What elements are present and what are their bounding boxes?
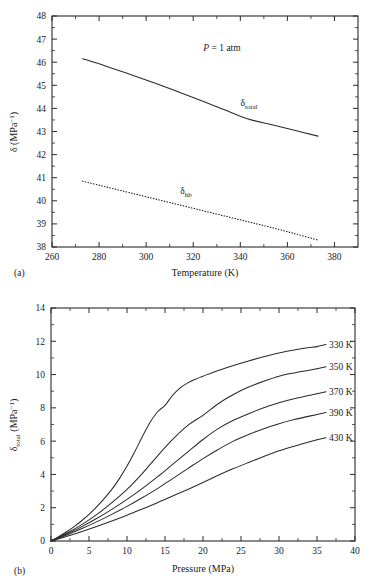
panel-b-plot-frame: [51, 308, 355, 541]
leader-line: [317, 438, 326, 440]
panel-a-y-axis-title: δ (MPa−1): [8, 112, 21, 152]
y-tick-label: 48: [37, 11, 47, 21]
series-label: 330 K: [329, 340, 353, 350]
panel-a-tag: (a): [14, 268, 25, 279]
y-tick-label: 40: [37, 196, 47, 206]
x-tick-label: 15: [160, 546, 170, 556]
panel-b-curves: [51, 347, 317, 541]
x-tick-label: 40: [350, 546, 360, 556]
x-tick-label: 20: [198, 546, 208, 556]
leader-line: [317, 413, 326, 415]
y-tick-label: 8: [40, 403, 45, 413]
series-label: 350 K: [329, 362, 353, 372]
leader-line: [317, 367, 326, 369]
panel-b: 0510152025303540 02468101214 330 K350 K3…: [0, 285, 371, 587]
x-tick-label: 320: [186, 252, 201, 262]
panel-a-x-ticks: 260280300320340360380: [45, 16, 342, 262]
y-tick-label: 12: [36, 337, 46, 347]
panel-b-series-labels: 330 K350 K370 K390 K430 K: [329, 340, 353, 443]
label-delta-hb: δhb: [180, 186, 192, 199]
panel-b-label-leaders: [317, 345, 326, 440]
leader-line: [317, 345, 326, 347]
y-tick-label: 43: [37, 127, 47, 137]
figure-container: 260280300320340360380 383940414243444546…: [0, 0, 371, 587]
y-tick-label: 47: [37, 35, 47, 45]
curve-delta-hb: [83, 181, 318, 240]
x-tick-label: 380: [327, 252, 342, 262]
curve-330-k: [51, 347, 317, 541]
panel-a: 260280300320340360380 383940414243444546…: [0, 0, 371, 290]
x-tick-label: 10: [122, 546, 132, 556]
y-tick-label: 14: [36, 303, 46, 313]
x-tick-label: 340: [233, 252, 248, 262]
y-tick-label: 45: [37, 81, 47, 91]
y-tick-label: 44: [37, 104, 47, 114]
x-tick-label: 300: [139, 252, 154, 262]
label-delta-total: δtotal: [241, 98, 258, 111]
annotation-pressure: P = 1 atm: [202, 43, 241, 53]
y-tick-label: 4: [40, 470, 45, 480]
x-tick-label: 30: [274, 546, 284, 556]
panel-b-x-axis-title: Pressure (MPa): [172, 563, 234, 575]
x-tick-label: 280: [92, 252, 107, 262]
series-label: 370 K: [329, 387, 353, 397]
curve-delta-total: [83, 59, 318, 136]
x-tick-label: 260: [45, 252, 60, 262]
x-tick-label: 5: [87, 546, 92, 556]
y-tick-label: 2: [40, 503, 45, 513]
y-tick-label: 10: [36, 370, 46, 380]
panel-b-y-axis-title: δtotal (MPa−1): [8, 399, 22, 452]
panel-a-svg: 260280300320340360380 383940414243444546…: [0, 0, 371, 290]
y-tick-label: 42: [37, 150, 47, 160]
panel-b-y-ticks: 02468101214: [36, 303, 356, 546]
x-tick-label: 0: [49, 546, 54, 556]
x-tick-label: 360: [280, 252, 295, 262]
panel-b-tag: (b): [14, 566, 25, 577]
panel-a-y-ticks: 3839404142434445464748: [37, 11, 359, 252]
y-tick-label: 6: [40, 437, 45, 447]
y-tick-label: 38: [37, 242, 47, 252]
y-tick-label: 41: [37, 173, 47, 183]
annotation-text: = 1 atm: [212, 43, 242, 53]
y-tick-label: 39: [37, 219, 47, 229]
series-label: 430 K: [329, 433, 353, 443]
panel-b-svg: 0510152025303540 02468101214 330 K350 K3…: [0, 285, 371, 587]
panel-a-x-axis-title: Temperature (K): [172, 267, 239, 279]
series-label: 390 K: [329, 408, 353, 418]
x-tick-label: 25: [236, 546, 246, 556]
leader-line: [317, 392, 326, 394]
x-tick-label: 35: [312, 546, 322, 556]
y-tick-label: 0: [40, 536, 45, 546]
y-tick-label: 46: [37, 58, 47, 68]
